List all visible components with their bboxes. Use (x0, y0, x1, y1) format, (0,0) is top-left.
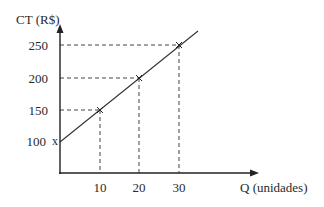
x-tick-30: 30 (167, 181, 191, 194)
y-tick-200: 200 (18, 72, 48, 85)
cost-chart (0, 0, 324, 207)
guide-lines (60, 45, 179, 173)
y-axis-label: CT (R$) (16, 13, 59, 26)
cost-line (60, 31, 198, 142)
y-tick-100: 100 (16, 135, 46, 148)
origin-marker-x-icon: x (52, 135, 58, 147)
axes (57, 24, 260, 177)
x-axis-label: Q (unidades) (240, 181, 308, 194)
x-axis-arrow-icon (250, 170, 259, 177)
y-tick-250: 250 (18, 39, 48, 52)
y-tick-150: 150 (18, 104, 48, 117)
x-tick-10: 10 (88, 181, 112, 194)
x-tick-20: 20 (127, 181, 151, 194)
